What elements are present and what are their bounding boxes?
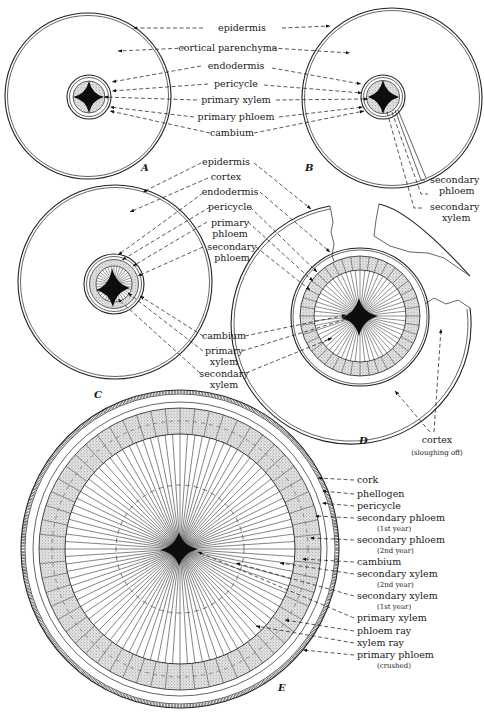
label-secondary-phloem-b-2: phloem [439,185,475,196]
label-secondary-xylem-2nd: secondary xylem [357,568,438,579]
label-endodermis-ab: endodermis [208,60,265,71]
label-secondary-phloem-2nd: secondary phloem [357,534,445,545]
labels-b-right: secondary phloem secondary xylem [387,110,480,223]
label-primary-phloem-crushed: primary phloem [357,649,434,660]
label-endodermis-cd: endodermis [202,186,259,197]
label-secondary-phloem-b-1: secondary [430,174,480,185]
label-secondary-phloem-cd-2: phloem [214,252,250,263]
panel-c: C [18,185,212,400]
root-cross-section-diagram: A B epidermis cortical parenchyma endode… [0,0,484,716]
label-secondary-phloem-1st-year: (1st year) [377,525,411,533]
label-secondary-xylem-b-1: secondary [430,201,480,212]
label-sloughing-off: (sloughing off) [411,449,463,457]
label-pericycle-e: pericycle [357,500,401,511]
panel-letter-b: B [304,162,313,173]
label-primary-xylem-cd-1: primary [205,345,244,356]
label-cortical-parenchyma: cortical parenchyma [179,42,278,53]
panel-b: B [302,8,482,188]
label-pericycle-ab: pericycle [214,78,258,89]
label-epidermis-cd: epidermis [202,156,250,167]
label-epidermis-ab: epidermis [218,22,266,33]
label-primary-xylem-cd-2: xylem [210,356,238,367]
label-primary-xylem-ab: primary xylem [201,94,271,105]
label-secondary-phloem-cd-1: secondary [207,241,257,252]
label-xylem-ray: xylem ray [357,637,405,648]
label-cambium-e: cambium [357,556,401,567]
label-secondary-xylem-cd-2: xylem [210,379,238,390]
label-pericycle-cd: pericycle [208,201,252,212]
label-cortex-d: cortex [422,434,453,445]
label-cambium-cd: cambium [202,330,246,341]
label-secondary-phloem-2nd-year: (2nd year) [377,547,414,555]
panel-e: E [21,390,339,708]
label-cortex-cd: cortex [211,171,242,182]
label-secondary-xylem-1st-year: (1st year) [377,603,411,611]
labels-ab: epidermis cortical parenchyma endodermis… [104,22,368,138]
label-cambium-ab: cambium [210,127,254,138]
panel-letter-d: D [358,435,368,446]
label-secondary-xylem-1st: secondary xylem [357,590,438,601]
label-primary-xylem-e: primary xylem [357,612,427,623]
label-primary-phloem-ab: primary phloem [198,111,275,122]
label-secondary-xylem-cd-1: secondary [199,368,249,379]
panel-letter-a: A [140,162,149,173]
panel-letter-e: E [277,682,286,693]
stele-b [361,75,405,119]
label-secondary-xylem-b-2: xylem [442,212,470,223]
panel-d: D cortex (sloughing off) [231,204,471,457]
panel-a: A [5,13,171,179]
label-secondary-phloem-1st: secondary phloem [357,512,445,523]
label-primary-phloem-cd-2: phloem [212,228,248,239]
label-cork: cork [357,474,379,485]
label-primary-phloem-cd-1: primary [211,217,250,228]
label-secondary-xylem-2nd-year: (2nd year) [377,581,414,589]
panel-letter-c: C [94,389,102,400]
label-phellogen: phellogen [357,488,404,499]
label-primary-phloem-crushed-sub: (crushed) [377,662,411,670]
label-phloem-ray: phloem ray [357,625,412,636]
stele-c [84,254,144,314]
